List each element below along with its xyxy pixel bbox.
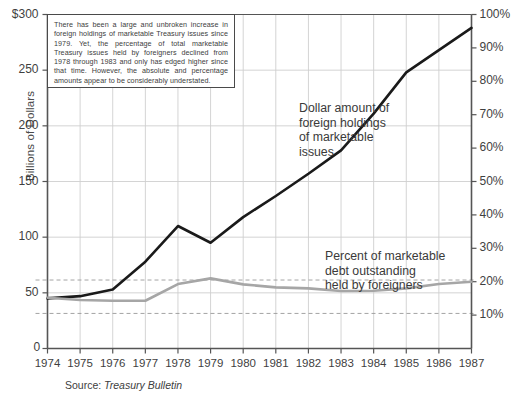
y2-tick-label: 90%	[480, 40, 504, 54]
y2-tick-label: 30%	[480, 240, 504, 254]
y-tick-label: $300	[0, 7, 39, 21]
y-tick-label: 150	[0, 174, 39, 188]
y2-tick-label: 60%	[480, 140, 504, 154]
source-value: Treasury Bulletin	[104, 379, 182, 391]
source-caption: Source: Treasury Bulletin	[65, 379, 182, 391]
y2-tick-label: 80%	[480, 73, 504, 87]
y2-tick-label: 100%	[480, 7, 511, 21]
y2-tick-label: 70%	[480, 107, 504, 121]
annotation-dollar-series: Dollar amount of foreign holdings of mar…	[299, 101, 389, 159]
y2-tick-label: 10%	[480, 307, 504, 321]
x-tick-label: 1987	[452, 357, 492, 369]
y2-tick-label: 20%	[480, 274, 504, 288]
y-tick-label: 200	[0, 118, 39, 132]
y-tick-label-zero: 0	[34, 340, 41, 354]
y2-tick-label: 40%	[480, 207, 504, 221]
source-label: Source:	[65, 379, 104, 391]
y-tick-label: 50	[0, 285, 39, 299]
y-tick-label: 100	[0, 229, 39, 243]
callout-note-box: There has been a large and unbroken incr…	[47, 14, 235, 88]
y-tick-label: 250	[0, 62, 39, 76]
y-axis-left-title: Billions of Dollars	[24, 56, 36, 216]
y2-tick-label: 50%	[480, 174, 504, 188]
annotation-percent-series: Percent of marketable debt outstanding h…	[325, 249, 445, 293]
callout-note-text: There has been a large and unbroken incr…	[54, 20, 228, 85]
